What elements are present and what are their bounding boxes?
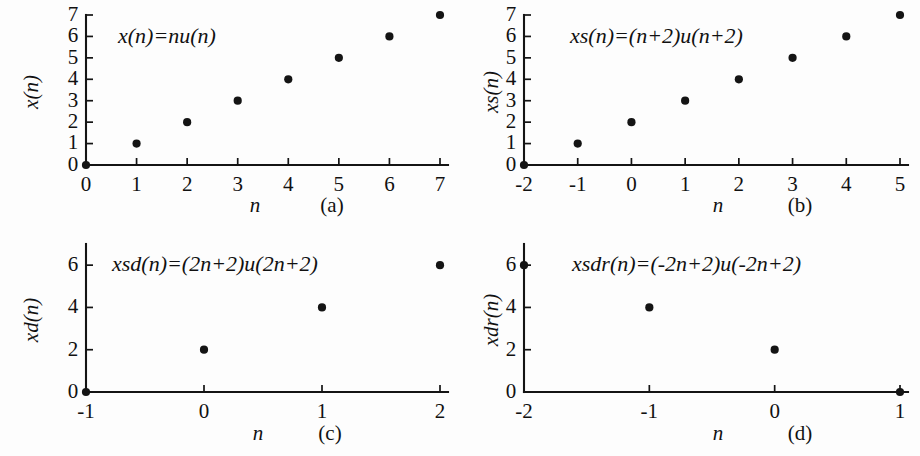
y-tick-label: 2: [506, 109, 517, 133]
x-axis-label: n: [250, 193, 261, 217]
data-point: [82, 388, 90, 396]
x-tick-label: 1: [317, 399, 328, 423]
data-point: [183, 118, 191, 126]
y-axis-label: x(n): [19, 75, 43, 110]
data-point: [234, 97, 242, 105]
data-point: [896, 388, 904, 396]
x-tick-label: 2: [435, 399, 446, 423]
data-point: [520, 161, 528, 169]
y-tick-label: 7: [68, 2, 79, 26]
y-tick-label: 5: [506, 45, 517, 69]
data-point: [574, 139, 582, 147]
x-tick-label: 4: [841, 172, 852, 196]
x-tick-label: 7: [435, 172, 446, 196]
x-axis-label: n: [713, 193, 724, 217]
y-tick-label: 2: [68, 109, 79, 133]
equation-annotation: xsdr(n)=(-2n+2)u(-2n+2): [571, 251, 801, 276]
equation-annotation: xs(n)=(n+2)u(n+2): [569, 23, 743, 48]
x-tick-label: -2: [515, 172, 533, 196]
y-tick-label: 1: [68, 130, 79, 154]
x-axis-label: n: [253, 421, 264, 445]
x-tick-label: 2: [734, 172, 745, 196]
data-point: [896, 11, 904, 19]
chart-svg-d: 0246-2-101xsdr(n)=(-2n+2)u(-2n+2)n(d)xdr…: [460, 228, 920, 456]
chart-svg-c: 0246-1012xsd(n)=(2n+2)u(2n+2)n(c)xd(n): [0, 228, 460, 456]
data-point: [842, 32, 850, 40]
x-tick-label: 1: [895, 399, 906, 423]
data-point: [735, 75, 743, 83]
x-tick-label: 0: [769, 399, 780, 423]
y-tick-label: 4: [506, 294, 517, 318]
chart-panel-a: 0123456701234567x(n)=nu(n)n(a)x(n): [0, 0, 460, 228]
x-tick-label: -1: [569, 172, 587, 196]
panel-tag-label: (b): [788, 193, 813, 217]
x-tick-label: 0: [81, 172, 92, 196]
y-tick-label: 4: [506, 66, 517, 90]
equation-annotation: xsd(n)=(2n+2)u(2n+2): [111, 251, 318, 276]
figure-panel-grid: 0123456701234567x(n)=nu(n)n(a)x(n) 01234…: [0, 0, 920, 456]
data-point: [788, 54, 796, 62]
data-point: [82, 161, 90, 169]
y-axis-label: xs(n): [479, 71, 503, 114]
data-point: [335, 54, 343, 62]
data-point: [318, 303, 326, 311]
y-tick-label: 6: [506, 252, 517, 276]
y-tick-label: 7: [506, 2, 517, 26]
chart-svg-a: 0123456701234567x(n)=nu(n)n(a)x(n): [0, 0, 460, 228]
x-axis-label: n: [713, 421, 724, 445]
chart-svg-b: 01234567-2-1012345xs(n)=(n+2)u(n+2)n(b)x…: [460, 0, 920, 228]
y-tick-label: 2: [68, 337, 79, 361]
data-point: [436, 261, 444, 269]
y-tick-label: 2: [506, 337, 517, 361]
x-tick-label: -2: [515, 399, 533, 423]
data-point: [771, 346, 779, 354]
y-tick-label: 5: [68, 45, 79, 69]
data-point: [520, 261, 528, 269]
data-point: [284, 75, 292, 83]
chart-panel-d: 0246-2-101xsdr(n)=(-2n+2)u(-2n+2)n(d)xdr…: [460, 228, 920, 456]
data-point: [385, 32, 393, 40]
data-point: [645, 303, 653, 311]
y-tick-label: 3: [506, 88, 517, 112]
data-point: [200, 346, 208, 354]
data-point: [627, 118, 635, 126]
x-tick-label: 6: [384, 172, 395, 196]
panel-tag-label: (c): [318, 421, 341, 445]
x-tick-label: 1: [680, 172, 691, 196]
x-tick-label: 4: [283, 172, 294, 196]
equation-annotation: x(n)=nu(n): [117, 23, 216, 48]
y-tick-label: 1: [506, 130, 517, 154]
y-tick-label: 0: [68, 152, 79, 176]
panel-tag-label: (a): [320, 193, 343, 217]
y-axis-label: xdr(n): [479, 294, 503, 347]
data-point: [681, 97, 689, 105]
x-tick-label: 5: [895, 172, 906, 196]
y-tick-label: 4: [68, 294, 79, 318]
chart-panel-c: 0246-1012xsd(n)=(2n+2)u(2n+2)n(c)xd(n): [0, 228, 460, 456]
x-tick-label: 0: [199, 399, 210, 423]
x-tick-label: 1: [131, 172, 142, 196]
y-tick-label: 3: [68, 88, 79, 112]
x-tick-label: 0: [626, 172, 637, 196]
data-point: [132, 139, 140, 147]
x-tick-label: 3: [232, 172, 243, 196]
chart-panel-b: 01234567-2-1012345xs(n)=(n+2)u(n+2)n(b)x…: [460, 0, 920, 228]
x-tick-label: 2: [182, 172, 193, 196]
panel-tag-label: (d): [788, 421, 813, 445]
data-point: [436, 11, 444, 19]
y-axis-label: xd(n): [19, 298, 43, 343]
y-tick-label: 6: [68, 23, 79, 47]
x-tick-label: -1: [77, 399, 95, 423]
y-tick-label: 6: [68, 252, 79, 276]
x-tick-label: -1: [641, 399, 659, 423]
y-tick-label: 6: [506, 23, 517, 47]
y-tick-label: 4: [68, 66, 79, 90]
